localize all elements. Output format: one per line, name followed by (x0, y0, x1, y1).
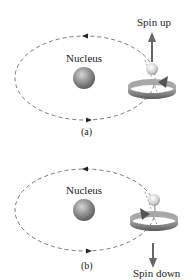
spin-rotation-band-icon (128, 79, 176, 92)
panel-a-spin-up: Nucleus Spin up (a) (0, 0, 195, 140)
electron-sphere (146, 63, 158, 75)
orbit-arrow-top-icon (82, 34, 88, 39)
spin-down-arrow-icon (149, 243, 157, 268)
orbit-arrow-bottom-icon (86, 118, 92, 123)
panel-b-diagram (0, 140, 195, 280)
nucleus-label: Nucleus (66, 184, 102, 196)
electron-sphere (148, 194, 160, 206)
nucleus-sphere (73, 199, 95, 221)
orbit-arrow-bottom-icon (86, 249, 92, 254)
panel-caption-b: (b) (81, 260, 93, 271)
spin-up-arrow-icon (148, 32, 156, 62)
panel-caption-a: (a) (81, 126, 92, 137)
spin-up-label: Spin up (137, 16, 171, 28)
spin-down-label: Spin down (133, 267, 180, 279)
nucleus-sphere (73, 67, 95, 89)
orbit-arrow-top-icon (82, 167, 88, 172)
panel-b-spin-down: Nucleus (b) Spin down (0, 140, 195, 280)
nucleus-label: Nucleus (66, 52, 102, 64)
